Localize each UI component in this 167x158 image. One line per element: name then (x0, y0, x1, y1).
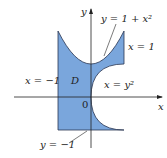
region-label: D (70, 75, 79, 86)
label-bottom-line: y = −1 (39, 139, 75, 150)
x-axis-arrow-icon (157, 95, 163, 99)
label-inner-parabola: x = y² (104, 79, 134, 90)
y-axis-label: y (80, 6, 87, 17)
y-axis-arrow-icon (89, 8, 93, 14)
label-right-line: x = 1 (128, 41, 155, 52)
x-axis-label: x (158, 101, 164, 112)
region-diagram: y x 0 D y = 1 + x² x = 1 x = −1 x = y² y… (0, 0, 167, 158)
label-upper-curve: y = 1 + x² (100, 13, 152, 24)
label-left-line: x = −1 (25, 75, 60, 86)
origin-label: 0 (82, 99, 88, 110)
